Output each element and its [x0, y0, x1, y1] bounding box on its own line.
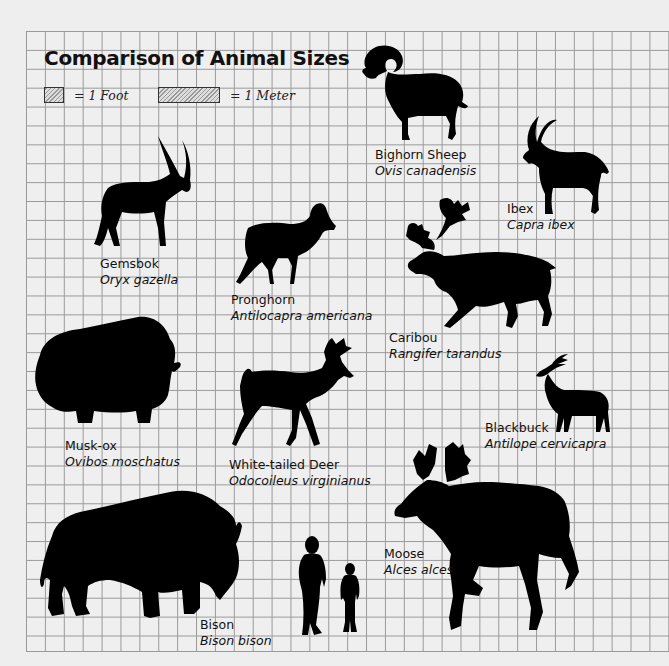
scientific-name: Oryx gazella [100, 272, 178, 288]
common-name: Gemsbok [100, 256, 178, 272]
foot-swatch-icon [44, 87, 64, 103]
legend-meter: = 1 Meter [158, 87, 295, 103]
bighorn-sheep-silhouette-icon [358, 44, 483, 144]
common-name: Moose [384, 546, 453, 562]
gemsbok-silhouette-icon [90, 136, 195, 251]
common-name: Bison [200, 617, 272, 633]
scientific-name: Ovis canadensis [375, 163, 476, 179]
bison-silhouette-icon [40, 486, 245, 621]
legend-meter-label: = 1 Meter [230, 88, 295, 103]
scientific-name: Ovibos moschatus [65, 454, 180, 470]
scientific-name: Odocoileus virginianus [229, 473, 371, 489]
scientific-name: Alces alces [384, 562, 453, 578]
legend-foot-label: = 1 Foot [74, 88, 128, 103]
common-name: Bighorn Sheep [375, 147, 476, 163]
adult-human-silhouette-icon [294, 535, 330, 637]
gemsbok-label: Gemsbok Oryx gazella [100, 256, 178, 288]
caribou-silhouette-icon [400, 196, 560, 334]
pronghorn-label: Pronghorn Antilocapra americana [231, 292, 372, 324]
common-name: Blackbuck [485, 420, 606, 436]
child-human-silhouette-icon [337, 562, 363, 636]
common-name: Pronghorn [231, 292, 372, 308]
scientific-name: Antilocapra americana [231, 308, 372, 324]
moose-label: Moose Alces alces [384, 546, 453, 578]
scientific-name: Bison bison [200, 633, 272, 649]
pronghorn-silhouette-icon [232, 200, 342, 288]
common-name: White-tailed Deer [229, 457, 371, 473]
common-name: Musk-ox [65, 438, 180, 454]
page-title: Comparison of Animal Sizes [44, 46, 349, 70]
bison-label: Bison Bison bison [200, 617, 272, 649]
legend-foot: = 1 Foot [44, 87, 128, 103]
meter-swatch-icon [158, 87, 220, 103]
white-tailed-deer-label: White-tailed Deer Odocoileus virginianus [229, 457, 371, 489]
bighorn-sheep-label: Bighorn Sheep Ovis canadensis [375, 147, 476, 179]
musk-ox-silhouette-icon [34, 315, 184, 427]
moose-silhouette-icon [393, 440, 593, 635]
white-tailed-deer-silhouette-icon [228, 334, 358, 452]
common-name: Caribou [389, 330, 502, 346]
scientific-name: Rangifer tarandus [389, 346, 502, 362]
caribou-label: Caribou Rangifer tarandus [389, 330, 502, 362]
musk-ox-label: Musk-ox Ovibos moschatus [65, 438, 180, 470]
